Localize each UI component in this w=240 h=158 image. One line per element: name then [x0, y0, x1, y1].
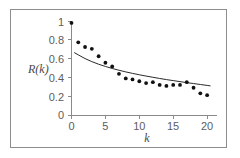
data-point: [158, 83, 162, 87]
scatter-series-points: [70, 21, 209, 97]
x-tick-label-15: 15: [167, 120, 179, 132]
data-point: [198, 91, 202, 95]
data-point: [205, 93, 209, 97]
data-point: [76, 40, 80, 44]
data-point: [104, 61, 108, 65]
y-tick-marks: [68, 22, 72, 116]
y-tick-label-1: 1: [58, 16, 64, 28]
data-point: [117, 72, 121, 76]
y-axis-title: R(k): [27, 62, 49, 76]
data-point: [185, 80, 189, 84]
y-tick-label-0-2: 0.2: [49, 91, 64, 103]
figure-root: 0 0.2 0.4 0.6 0.8 1 0 5 10 15 20 R(k) k: [0, 0, 240, 158]
figure-frame: 0 0.2 0.4 0.6 0.8 1 0 5 10 15 20 R(k) k: [10, 9, 227, 148]
chart-plot-area: 0 0.2 0.4 0.6 0.8 1 0 5 10 15 20 R(k) k: [11, 10, 226, 147]
data-point: [144, 81, 148, 85]
data-point: [70, 21, 74, 25]
data-point: [131, 78, 135, 82]
y-tick-label-0-8: 0.8: [49, 34, 64, 46]
x-axis-title: k: [144, 131, 150, 145]
data-point: [165, 84, 169, 88]
data-point: [90, 47, 94, 51]
data-point: [97, 54, 101, 58]
data-point: [83, 45, 87, 49]
y-tick-label-0-4: 0.4: [49, 72, 64, 84]
data-point: [137, 79, 141, 83]
data-point: [124, 77, 128, 81]
data-point: [178, 83, 182, 87]
x-tick-label-5: 5: [102, 120, 108, 132]
data-point: [110, 65, 114, 69]
data-point: [151, 80, 155, 84]
x-tick-label-20: 20: [201, 120, 213, 132]
data-point: [171, 83, 175, 87]
fitted-decay-curve: [74, 53, 210, 86]
data-point: [192, 86, 196, 90]
y-tick-label-0: 0: [58, 109, 64, 121]
x-tick-label-0: 0: [68, 120, 74, 132]
y-tick-label-0-6: 0.6: [49, 53, 64, 65]
